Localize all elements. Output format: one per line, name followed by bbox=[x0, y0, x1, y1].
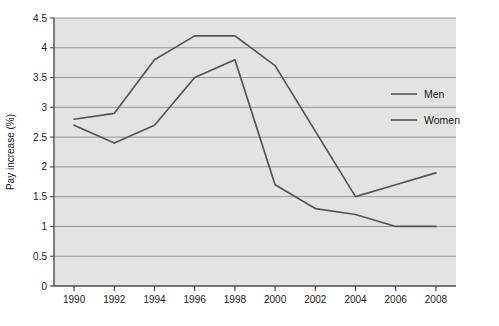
y-axis-tick-label: 2 bbox=[41, 161, 47, 172]
y-axis-tick-label: 3 bbox=[41, 102, 47, 113]
y-axis-tick-label: 2.5 bbox=[33, 132, 47, 143]
x-axis-tick-label: 2000 bbox=[264, 294, 287, 305]
y-axis-tick-label: 4.5 bbox=[33, 13, 47, 24]
x-axis-tick-label: 2006 bbox=[385, 294, 408, 305]
y-axis-tick-label: 1.5 bbox=[33, 191, 47, 202]
y-axis-tick-label: 3.5 bbox=[33, 72, 47, 83]
x-axis-tick-label: 1990 bbox=[63, 294, 86, 305]
y-axis-tick-label: 0.5 bbox=[33, 251, 47, 262]
legend-label-women: Women bbox=[424, 114, 460, 126]
x-axis-tick-label: 1992 bbox=[103, 294, 126, 305]
x-axis-tick-label: 1998 bbox=[224, 294, 247, 305]
y-axis-tick-label: 0 bbox=[41, 281, 47, 292]
y-axis-tick-label: 1 bbox=[41, 221, 47, 232]
x-axis-tick-label: 2002 bbox=[304, 294, 327, 305]
y-axis-title: Pay increase (%) bbox=[5, 114, 16, 190]
x-axis-tick-label: 1994 bbox=[143, 294, 166, 305]
line-chart: 00.511.522.533.544.5 1990199219941996199… bbox=[0, 0, 499, 326]
x-axis-tick-label: 2004 bbox=[344, 294, 367, 305]
x-axis-tick-label: 2008 bbox=[425, 294, 448, 305]
legend-label-men: Men bbox=[424, 88, 445, 100]
plot-area-background bbox=[54, 18, 456, 286]
chart-figure: 00.511.522.533.544.5 1990199219941996199… bbox=[0, 0, 499, 326]
x-axis-tick-label: 1996 bbox=[184, 294, 207, 305]
y-axis-tick-label: 4 bbox=[41, 42, 47, 53]
